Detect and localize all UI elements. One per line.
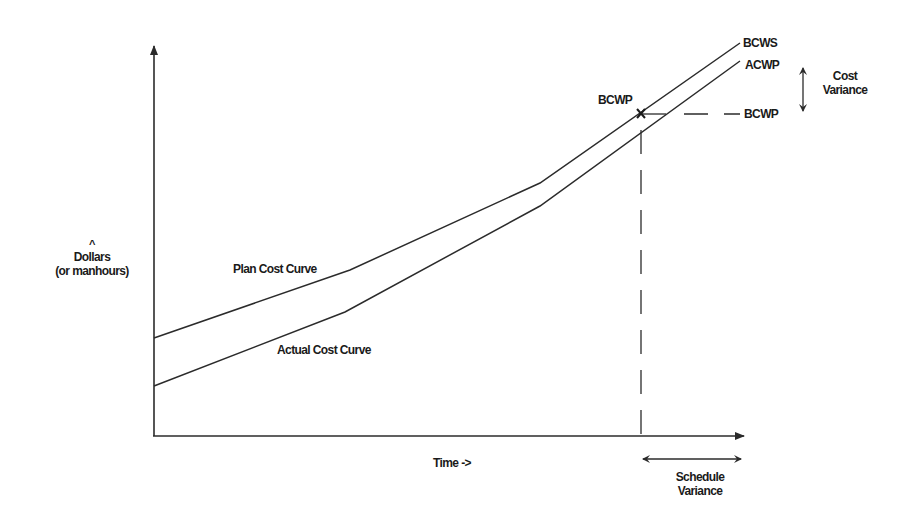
y-axis-label-line2: (or manhours) <box>40 264 144 278</box>
cost-variance-line1: Cost <box>812 69 878 83</box>
plan-cost-curve <box>154 43 740 338</box>
acwp-label: ACWP <box>745 58 779 72</box>
cost-variance-label: Cost Variance <box>812 69 878 97</box>
schedule-variance-label: Schedule Variance <box>658 470 742 498</box>
actual-cost-curve-label: Actual Cost Curve <box>277 343 371 357</box>
schedule-variance-line1: Schedule <box>658 470 742 484</box>
x-axis-label: Time -> <box>433 456 471 470</box>
y-axis-label-line1: Dollars <box>40 250 144 264</box>
schedule-variance-line2: Variance <box>658 484 742 498</box>
y-axis-label: ^ Dollars (or manhours) <box>40 238 144 278</box>
cost-variance-line2: Variance <box>812 83 878 97</box>
plan-cost-curve-label: Plan Cost Curve <box>233 262 317 276</box>
bcwp-right-label: BCWP <box>744 107 778 121</box>
y-axis-caret: ^ <box>40 238 144 250</box>
bcws-label: BCWS <box>743 36 777 50</box>
bcwp-point-label: BCWP <box>598 93 632 107</box>
actual-cost-curve <box>154 61 740 386</box>
